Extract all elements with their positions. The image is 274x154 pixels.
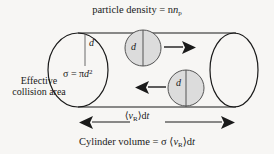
length-time-symbol: t xyxy=(147,110,150,121)
sigma-formula-prefix: σ = π xyxy=(63,68,84,79)
velocity-arrow-right xyxy=(164,41,196,54)
length-dimension-arrow xyxy=(79,116,235,129)
caption-bracket-close: ⟩d xyxy=(183,136,192,147)
cylinder-volume-caption: Cylinder volume = σ ⟨vR⟩dt xyxy=(79,136,195,149)
effective-line-2: collision area xyxy=(2,87,76,98)
sigma-formula-exponent: 2 xyxy=(89,68,93,76)
sigma-formula-label: σ = πd2 xyxy=(63,69,93,80)
cylinder-length-label: ⟨vR⟩dt xyxy=(125,111,150,123)
velocity-arrow-left xyxy=(135,81,166,94)
caption-time-symbol: t xyxy=(192,136,195,147)
right-end-cap-ellipse xyxy=(210,33,258,107)
collision-cylinder-figure: particle density = nnp Effective collisi… xyxy=(0,0,274,154)
caption-prefix: Cylinder volume = σ ⟨ xyxy=(79,136,173,147)
particle-density-subscript: p xyxy=(178,9,182,17)
particle-density-label: particle density = nnp xyxy=(92,4,182,17)
length-bracket-close: ⟩d xyxy=(138,110,147,121)
diameter-label-left: d xyxy=(89,38,94,49)
particle-density-text: particle density = n xyxy=(92,4,173,15)
diameter-label-middle: d xyxy=(131,42,136,53)
diameter-label-right: d xyxy=(176,78,181,89)
